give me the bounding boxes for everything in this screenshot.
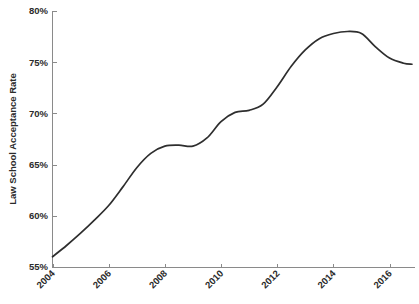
y-tick-label: 70% [29,108,49,119]
y-tick-label: 80% [29,5,49,16]
y-axis-title-group: Law School Acceptance Rate [7,73,18,205]
y-tick-label: 65% [29,159,49,170]
y-axis-title: Law School Acceptance Rate [7,73,18,205]
line-chart: Law School Acceptance Rate 80%75%70%65%6… [0,0,419,304]
chart-container: Law School Acceptance Rate 80%75%70%65%6… [0,0,419,304]
y-tick-label: 75% [29,57,49,68]
chart-background [0,0,419,304]
y-tick-label: 60% [29,210,49,221]
